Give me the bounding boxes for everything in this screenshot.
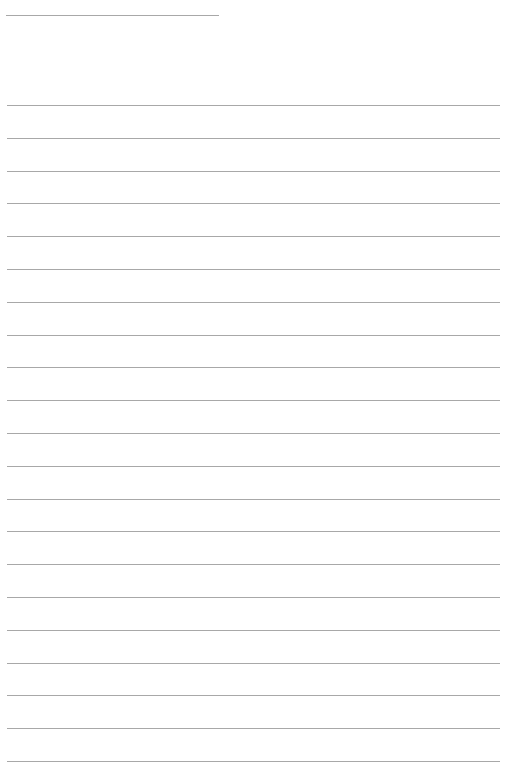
- ruled-line: [7, 564, 500, 565]
- ruled-line: [7, 335, 500, 336]
- ruled-line: [7, 499, 500, 500]
- ruled-line: [7, 138, 500, 139]
- ruled-line: [7, 236, 500, 237]
- ruled-line: [7, 203, 500, 204]
- ruled-line: [7, 302, 500, 303]
- ruled-line: [7, 663, 500, 664]
- header-line: [6, 15, 219, 16]
- ruled-line: [7, 400, 500, 401]
- lined-page: [0, 0, 515, 784]
- ruled-line: [7, 531, 500, 532]
- ruled-line: [7, 171, 500, 172]
- ruled-line: [7, 269, 500, 270]
- ruled-line: [7, 433, 500, 434]
- ruled-line: [7, 597, 500, 598]
- ruled-line: [7, 695, 500, 696]
- ruled-line: [7, 105, 500, 106]
- ruled-line: [7, 761, 500, 762]
- ruled-line: [7, 367, 500, 368]
- ruled-line: [7, 728, 500, 729]
- ruled-line: [7, 466, 500, 467]
- ruled-line: [7, 630, 500, 631]
